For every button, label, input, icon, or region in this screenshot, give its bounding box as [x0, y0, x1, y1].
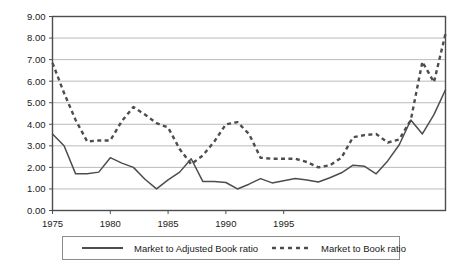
- chart-background: [0, 0, 462, 271]
- chart-figure: 0.001.002.003.004.005.006.007.008.009.00…: [0, 0, 462, 271]
- y-tick-label: 3.00: [27, 140, 46, 151]
- x-tick-label: 1995: [273, 218, 294, 229]
- y-tick-label: 9.00: [27, 11, 46, 22]
- line-chart-svg: 0.001.002.003.004.005.006.007.008.009.00…: [0, 0, 462, 271]
- y-tick-label: 8.00: [27, 32, 46, 43]
- legend-label-adjusted: Market to Adjusted Book ratio: [134, 243, 258, 254]
- x-tick-label: 1985: [158, 218, 179, 229]
- x-tick-label: 1975: [42, 218, 63, 229]
- y-tick-label: 2.00: [27, 162, 46, 173]
- y-tick-label: 6.00: [27, 76, 46, 87]
- y-tick-label: 0.00: [27, 205, 46, 216]
- y-tick-label: 5.00: [27, 97, 46, 108]
- y-tick-label: 1.00: [27, 183, 46, 194]
- y-tick-label: 7.00: [27, 54, 46, 65]
- legend: Market to Adjusted Book ratio Market to …: [63, 237, 407, 260]
- x-tick-label: 1990: [215, 218, 236, 229]
- y-tick-label: 4.00: [27, 119, 46, 130]
- legend-label-book: Market to Book ratio: [321, 243, 406, 254]
- x-tick-label: 1980: [100, 218, 121, 229]
